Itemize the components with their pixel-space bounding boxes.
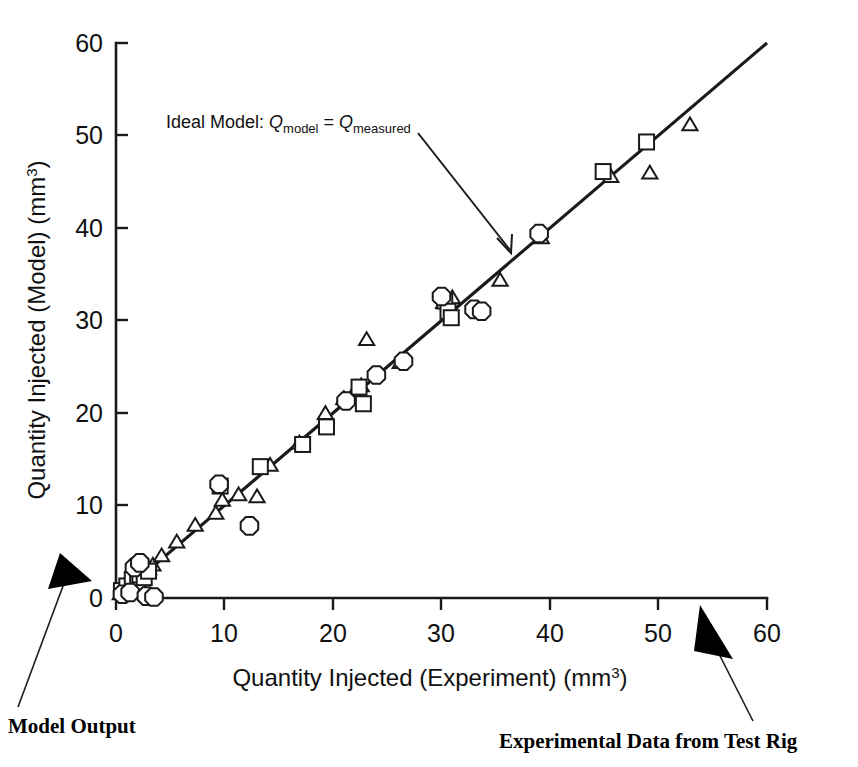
x-axis-title-main: Quantity Injected (Experiment) (mm <box>232 664 611 691</box>
x-tick-label: 30 <box>427 619 455 647</box>
x-axis-title: Quantity Injected (Experiment) (mm3) <box>232 664 627 691</box>
data-point-octagon <box>473 302 491 320</box>
annotation-sub-measured: measured <box>353 121 411 136</box>
data-point-octagon <box>241 517 259 535</box>
y-axis-title-superscript: 3 <box>23 168 40 176</box>
data-point-octagon <box>145 588 163 606</box>
data-point-octagon <box>530 225 548 243</box>
chart-figure: 60 50 40 30 20 10 0 0 10 20 30 40 50 60 … <box>0 0 858 767</box>
x-tick-label: 20 <box>319 619 347 647</box>
y-axis-title: Quantity Injected (Model) (mm3) <box>23 160 50 499</box>
x-axis-title-tail: ) <box>620 664 628 691</box>
annotation-prefix: Ideal Model: <box>166 112 269 132</box>
data-point-octagon <box>131 554 149 572</box>
y-tick-label: 0 <box>89 584 103 612</box>
data-point-square <box>253 459 268 474</box>
chart-background <box>0 0 858 767</box>
x-tick-label: 60 <box>753 619 781 647</box>
data-point-square <box>639 134 654 149</box>
x-tick-label: 0 <box>109 619 123 647</box>
data-point-octagon <box>395 352 413 370</box>
x-tick-label: 40 <box>536 619 564 647</box>
y-tick-label: 50 <box>75 121 103 149</box>
data-point-square <box>319 419 334 434</box>
experimental-data-callout-label: Experimental Data from Test Rig <box>499 729 798 753</box>
data-point-square <box>295 437 310 452</box>
y-tick-label: 10 <box>75 491 103 519</box>
y-tick-label: 60 <box>75 29 103 57</box>
data-point-octagon <box>433 288 451 306</box>
y-axis-title-tail: ) <box>23 160 50 168</box>
scatter-plot-canvas: 60 50 40 30 20 10 0 0 10 20 30 40 50 60 … <box>0 0 858 767</box>
y-tick-label: 20 <box>75 399 103 427</box>
data-point-octagon <box>210 475 228 493</box>
model-output-callout-label: Model Output <box>8 714 136 738</box>
y-axis-title-main: Quantity Injected (Model) (mm <box>23 177 50 500</box>
data-point-octagon <box>121 584 139 602</box>
y-tick-label: 30 <box>75 306 103 334</box>
data-point-square <box>356 396 371 411</box>
annotation-equals: = <box>319 112 340 132</box>
annotation-q-model: Q <box>269 112 283 132</box>
data-point-square <box>444 310 459 325</box>
data-point-octagon <box>368 366 386 384</box>
data-point-square <box>352 380 367 395</box>
y-tick-label: 40 <box>75 214 103 242</box>
x-axis-title-superscript: 3 <box>611 664 619 681</box>
x-tick-label: 50 <box>644 619 672 647</box>
data-point-octagon <box>337 392 355 410</box>
annotation-q-measured: Q <box>339 112 353 132</box>
data-point-square <box>596 164 611 179</box>
annotation-sub-model: model <box>283 121 319 136</box>
x-tick-label: 10 <box>210 619 238 647</box>
